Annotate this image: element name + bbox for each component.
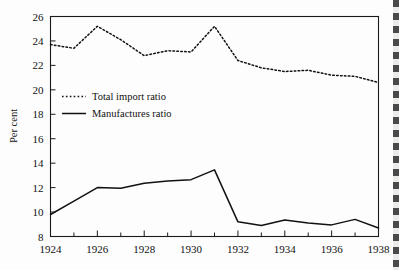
plot-frame xyxy=(51,17,379,237)
y-tick-label: 20 xyxy=(33,84,45,96)
y-tick-label: 8 xyxy=(38,231,44,243)
y-tick-label: 24 xyxy=(33,35,45,47)
line-chart: 8101214161820222426 19241926192819301932… xyxy=(0,0,399,270)
y-axis-title: Per cent xyxy=(8,109,19,143)
y-tick-label: 12 xyxy=(33,182,44,194)
x-tick-label: 1926 xyxy=(86,243,109,255)
y-tick-label: 22 xyxy=(33,59,44,71)
legend-label-manufactures-ratio: Manufactures ratio xyxy=(92,108,172,119)
chart-legend: Total import ratio Manufactures ratio xyxy=(62,91,172,119)
y-tick-label: 18 xyxy=(33,108,45,120)
x-tick-label: 1930 xyxy=(180,243,203,255)
y-tick-label: 10 xyxy=(33,206,45,218)
scan-edge-artifact xyxy=(393,0,399,270)
legend-label-total-import-ratio: Total import ratio xyxy=(92,91,166,102)
y-tick-label: 16 xyxy=(33,133,45,145)
series-total-import-ratio xyxy=(51,26,379,82)
x-tick-label: 1924 xyxy=(40,243,63,255)
x-tick-label: 1938 xyxy=(368,243,391,255)
y-tick-label: 14 xyxy=(33,157,45,169)
y-tick-label: 26 xyxy=(33,11,45,23)
x-axis: 19241926192819301932193419361938 xyxy=(40,231,391,255)
x-tick-label: 1928 xyxy=(133,243,156,255)
chart-figure: 8101214161820222426 19241926192819301932… xyxy=(0,0,399,270)
x-tick-label: 1934 xyxy=(274,243,297,255)
x-tick-label: 1936 xyxy=(321,243,344,255)
series-manufactures-ratio xyxy=(51,170,379,228)
x-tick-label: 1932 xyxy=(227,243,249,255)
